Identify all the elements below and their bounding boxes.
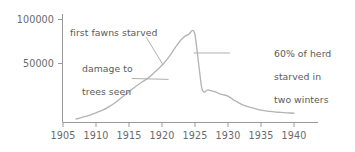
annotation-first-fawns-starved: first fawns starved bbox=[70, 27, 157, 39]
x-axis-ticks bbox=[63, 123, 294, 128]
x-tick-label-1925: 1925 bbox=[179, 130, 211, 141]
y-axis-ticks bbox=[58, 20, 63, 64]
annotation-sixty-line3: two winters bbox=[274, 94, 329, 105]
x-tick-label-1940: 1940 bbox=[278, 130, 310, 141]
annotation-damage-line2: trees seen bbox=[82, 86, 131, 97]
annotation-leader-lines bbox=[132, 37, 230, 79]
annotation-sixty-line1: 60% of herd bbox=[274, 48, 331, 59]
annotation-sixty-percent-starved: 60% of herd starved in two winters bbox=[262, 36, 331, 117]
annotation-sixty-line2: starved in bbox=[274, 71, 321, 82]
leader-damage-trees bbox=[132, 79, 169, 80]
x-tick-label-1935: 1935 bbox=[245, 130, 277, 141]
y-tick-label-50000: 50000 bbox=[0, 58, 54, 69]
annotation-damage-to-trees-seen: damage to trees seen bbox=[70, 51, 133, 109]
y-tick-label-100000: 100000 bbox=[0, 14, 54, 25]
kaibab-deer-population-chart: 100000 50000 1905 1910 1915 1920 1925 19… bbox=[0, 0, 355, 152]
x-tick-label-1910: 1910 bbox=[80, 130, 112, 141]
x-tick-label-1905: 1905 bbox=[47, 130, 79, 141]
annotation-damage-line1: damage to bbox=[82, 63, 133, 74]
x-tick-label-1920: 1920 bbox=[146, 130, 178, 141]
x-tick-label-1930: 1930 bbox=[212, 130, 244, 141]
x-tick-label-1915: 1915 bbox=[113, 130, 145, 141]
leader-first-fawns bbox=[146, 37, 163, 65]
